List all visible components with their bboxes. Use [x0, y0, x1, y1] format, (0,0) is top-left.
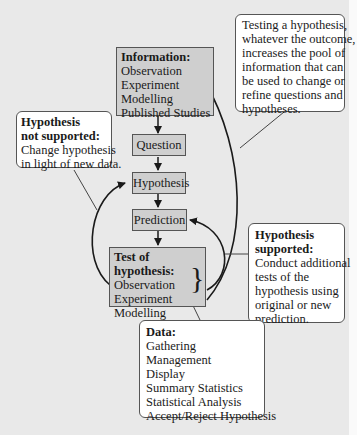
callout-line: prediction. [255, 312, 338, 326]
information-item: Modelling [121, 92, 209, 106]
callout-data: Data: Gathering Management Display Summa… [139, 320, 265, 418]
callout-line: tests of the [255, 270, 338, 284]
test-item: Observation [114, 278, 201, 292]
callout-line: hypotheses. [242, 102, 338, 116]
callout-title: not supported: [21, 129, 107, 143]
data-item: Summary Statistics [146, 381, 258, 395]
information-item: Published Studies [121, 106, 209, 120]
callout-line: Testing a hypothesis, [242, 18, 338, 32]
data-item: Management [146, 353, 258, 367]
data-item: Accept/Reject Hypothesis [146, 409, 258, 423]
callout-line: information that can [242, 60, 338, 74]
callout-line: whatever the outcome, [242, 32, 338, 46]
callout-line: increases the pool of [242, 46, 338, 60]
test-title: Test of hypothesis: [114, 250, 201, 278]
callout-title: supported: [255, 242, 338, 256]
callout-line: be used to change or [242, 74, 338, 88]
callout-hypothesis-not-supported: Hypothesis not supported: Change hypothe… [16, 111, 112, 168]
callout-testing-outcome: Testing a hypothesis, whatever the outco… [235, 14, 345, 112]
callout-line: Conduct additional [255, 256, 338, 270]
question-label: Question [136, 138, 181, 152]
test-item: Experiment [114, 292, 201, 306]
prediction-box: Prediction [132, 209, 187, 231]
information-item: Experiment [121, 78, 209, 92]
brace-icon: } [190, 263, 204, 293]
hypothesis-label: Hypothesis [133, 176, 189, 190]
callout-title: Data: [146, 325, 258, 339]
information-box: Information: Observation Experiment Mode… [116, 47, 214, 116]
callout-line: original or new [255, 298, 338, 312]
question-box: Question [132, 134, 186, 156]
callout-line: in light of new data. [21, 157, 107, 171]
data-item: Display [146, 367, 258, 381]
data-item: Statistical Analysis [146, 395, 258, 409]
hypothesis-box: Hypothesis [132, 172, 186, 194]
callout-title: Hypothesis [255, 228, 338, 242]
information-title: Information: [121, 50, 209, 64]
test-item: Modelling [114, 306, 201, 320]
prediction-label: Prediction [134, 213, 185, 227]
callout-line: hypothesis using [255, 284, 338, 298]
callout-line: refine questions and [242, 88, 338, 102]
callout-line: Change hypothesis [21, 143, 107, 157]
callout-title: Hypothesis [21, 115, 107, 129]
test-of-hypothesis-box: Test of hypothesis: Observation Experime… [109, 247, 206, 307]
information-item: Observation [121, 64, 209, 78]
callout-hypothesis-supported: Hypothesis supported: Conduct additional… [248, 223, 345, 323]
data-item: Gathering [146, 339, 258, 353]
